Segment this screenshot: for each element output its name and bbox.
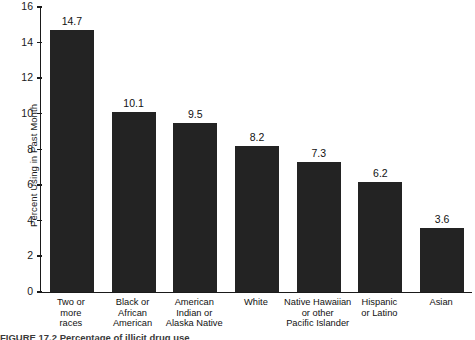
bar: 10.1 — [112, 112, 156, 292]
bar-value-label: 6.2 — [373, 167, 388, 179]
bar: 8.2 — [235, 146, 279, 292]
bar-value-label: 3.6 — [435, 213, 450, 225]
bar-value-label: 8.2 — [250, 131, 265, 143]
bar-chart: Percent Using in Past Month 024681012141… — [0, 0, 475, 340]
y-tick-label: 0 — [27, 285, 33, 297]
bar: 6.2 — [358, 182, 402, 292]
y-tick-label: 16 — [21, 0, 33, 12]
bar-value-label: 9.5 — [188, 108, 203, 120]
y-tick-label: 12 — [21, 71, 33, 83]
caption-text: FIGURE 17.2 Percentage of illicit drug u… — [0, 332, 190, 340]
y-axis-title: Percent Using in Past Month — [28, 71, 39, 261]
tick-mark-icon — [37, 255, 42, 257]
x-category-label-line: Alaska Native — [155, 318, 233, 329]
x-category-label-line: Pacific Islander — [279, 318, 357, 329]
y-tick-label: 4 — [27, 214, 33, 226]
plot-area: 0246810121416 14.710.19.58.27.36.23.6 — [40, 8, 472, 293]
bar-value-label: 14.7 — [62, 15, 82, 27]
tick-mark-icon — [37, 149, 42, 151]
figure-caption: FIGURE 17.2 Percentage of illicit drug u… — [0, 332, 475, 340]
y-tick-label: 8 — [27, 143, 33, 155]
tick-mark-icon — [37, 184, 42, 186]
x-category-label-line: or Latino — [341, 308, 419, 319]
y-tick-label: 2 — [27, 249, 33, 261]
bar-value-label: 10.1 — [123, 97, 143, 109]
bar: 14.7 — [50, 30, 94, 292]
tick-mark-icon — [37, 6, 42, 8]
y-tick-label: 14 — [21, 36, 33, 48]
bar: 3.6 — [420, 228, 464, 292]
tick-mark-icon — [37, 291, 42, 293]
bar: 9.5 — [173, 123, 217, 292]
x-category-label-line: Indian or — [155, 308, 233, 319]
tick-mark-icon — [37, 77, 42, 79]
bar: 7.3 — [297, 162, 341, 292]
x-category-label: Asian — [402, 297, 475, 308]
y-tick-label: 6 — [27, 178, 33, 190]
bar-value-label: 7.3 — [311, 147, 326, 159]
y-tick-label: 10 — [21, 107, 33, 119]
tick-mark-icon — [37, 113, 42, 115]
tick-mark-icon — [37, 220, 42, 222]
x-category-label-line: Asian — [402, 297, 475, 308]
tick-mark-icon — [37, 42, 42, 44]
